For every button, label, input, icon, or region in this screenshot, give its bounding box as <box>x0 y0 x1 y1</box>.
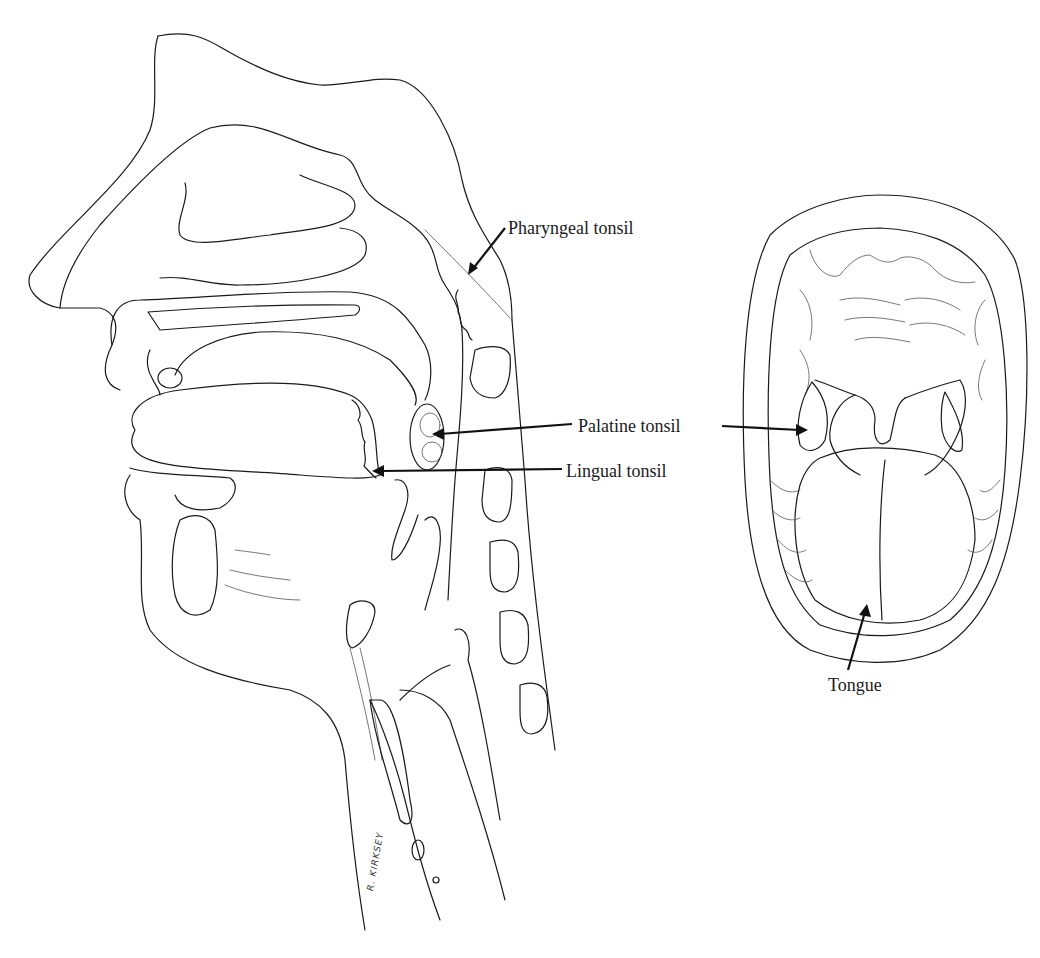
vertebra <box>482 468 512 522</box>
tongue-label: Tongue <box>828 676 882 694</box>
pharyngeal-tonsil-shape <box>456 290 472 340</box>
lingual-tonsil-label: Lingual tonsil <box>566 462 667 480</box>
vertebra <box>470 347 510 398</box>
sagittal-head-section <box>29 34 555 930</box>
vertebra <box>520 683 548 734</box>
tongue-sagittal <box>132 383 380 478</box>
palatine-arrow-right <box>722 426 800 430</box>
upper-teeth <box>810 250 975 283</box>
mandible <box>172 516 217 615</box>
lingual-tonsil-shape <box>352 400 376 478</box>
vertebra <box>490 540 519 592</box>
palatine-tonsil-left <box>798 382 827 450</box>
lingual-arrow <box>380 469 562 471</box>
nose-outline <box>29 36 158 390</box>
palatine-tonsil-right <box>941 392 962 451</box>
pharyngeal-tonsil-label: Pharyngeal tonsil <box>508 219 633 237</box>
tongue-oral <box>795 448 975 623</box>
tonsils-anatomy-diagram <box>0 0 1040 958</box>
lower-lip <box>130 468 235 510</box>
palatine-tonsil-label: Palatine tonsil <box>578 417 681 435</box>
face-profile <box>158 34 512 320</box>
pharyngeal-arrow <box>472 228 505 270</box>
hard-palate <box>111 292 431 400</box>
vertebra <box>500 611 529 664</box>
uvula <box>855 395 905 444</box>
leader-lines <box>372 228 871 670</box>
chin-outline <box>125 475 365 930</box>
